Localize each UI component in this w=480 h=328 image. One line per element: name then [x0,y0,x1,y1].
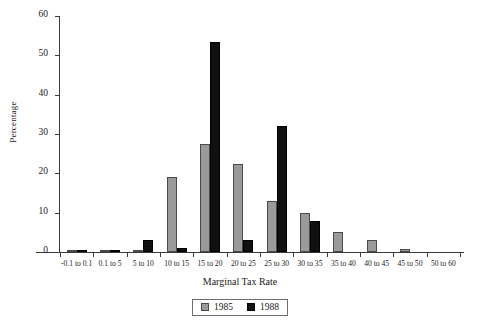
bar-1985-40-to-45 [367,240,377,252]
bar-1988-10-to-15 [177,248,187,252]
x-tick-mark [327,252,328,257]
y-tick-label: 60 [39,9,49,19]
bar-1985-10-to-15 [167,177,177,252]
x-tick-mark [260,252,261,257]
legend-swatch-icon [201,303,209,311]
x-tick-mark [127,252,128,257]
x-tick-mark [393,252,394,257]
bar-1985-25-to-30 [267,201,277,252]
x-tick-mark [460,252,461,257]
x-tick-mark [227,252,228,257]
y-tick-mark [55,213,60,214]
plot-area: 0102030405060 [60,16,460,252]
y-tick-label: 40 [39,88,49,98]
bar-1985-35-to-40 [333,232,343,252]
legend-entry-1985: 1985 [201,302,233,312]
y-tick-mark [55,173,60,174]
y-tick-label: 30 [39,127,49,137]
x-axis-line [36,252,464,253]
bar-1985-45-to-50 [400,249,410,252]
x-tick-mark [293,252,294,257]
x-axis-title: Marginal Tax Rate [0,276,480,287]
bar-1988-0-1-to-5 [110,250,120,252]
x-tick-mark [360,252,361,257]
y-tick-mark [55,55,60,56]
y-tick-label: 20 [39,166,49,176]
x-tick-mark [93,252,94,257]
bar-1985-20-to-25 [233,164,243,253]
y-tick-mark [55,134,60,135]
legend-label: 1988 [260,302,279,312]
y-tick-mark [55,16,60,17]
y-tick-mark [55,95,60,96]
x-tick-label: 50 to 60 [419,259,467,268]
x-tick-mark [427,252,428,257]
legend-entry-1988: 1988 [247,302,279,312]
bar-1988--0-1-to-0-1 [77,250,87,252]
y-tick-label: 0 [43,245,48,255]
y-axis-title: Percentage [8,82,18,162]
x-tick-mark [193,252,194,257]
legend-swatch-icon [247,303,255,311]
bar-1985-15-to-20 [200,144,210,252]
bar-1985-0-1-to-5 [100,250,110,252]
legend-label: 1985 [214,302,233,312]
bar-1985-30-to-35 [300,213,310,252]
x-tick-mark [160,252,161,257]
bar-1988-15-to-20 [210,42,220,252]
bar-1988-30-to-35 [310,221,320,252]
bar-1988-25-to-30 [277,126,287,252]
y-tick-label: 50 [39,48,49,58]
x-tick-mark [60,252,61,257]
bar-1988-5-to-10 [143,240,153,252]
chart-legend: 19851988 [192,299,288,316]
bar-1985-5-to-10 [133,250,143,252]
bar-1985--0-1-to-0-1 [67,250,77,252]
y-tick-label: 10 [39,206,49,216]
bar-1988-20-to-25 [243,240,253,252]
bar-chart-figure: Percentage 0102030405060 -0.1 to 0.10.1 … [0,0,480,328]
